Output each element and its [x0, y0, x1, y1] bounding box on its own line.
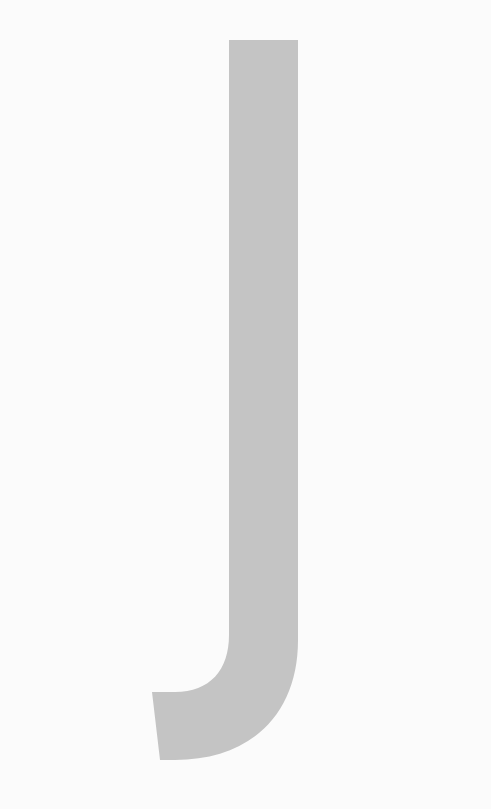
letter-canvas: J: [0, 0, 491, 809]
letter-j-shape: [152, 40, 298, 760]
letter-j-glyph: [0, 0, 491, 809]
